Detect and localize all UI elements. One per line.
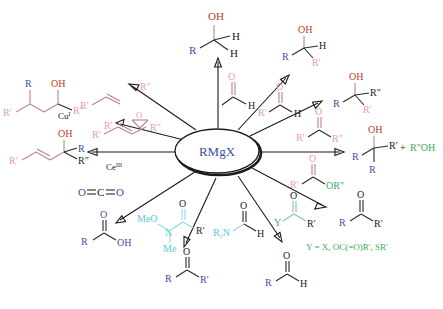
atom-rprime: R': [307, 218, 316, 229]
atom-o: O: [228, 71, 235, 82]
atom-h: H: [248, 100, 255, 111]
atom-o: O: [136, 110, 143, 120]
product-aldehyde: O R H: [265, 250, 307, 289]
atom-r: R: [282, 51, 289, 62]
product-primary-alcohol: OH R H H: [189, 10, 240, 59]
catalyst-cu-label: CuI: [58, 111, 71, 121]
reagent-acyl-y: O Y R': [274, 190, 316, 229]
arrowhead-bottom-right: [274, 233, 282, 243]
atom-o: O: [240, 200, 247, 211]
atom-rprime: R': [3, 107, 12, 118]
atom-rprime2: R": [78, 155, 89, 166]
reagent-ketone: O R' R": [296, 106, 343, 144]
atom-oh: OH: [208, 10, 224, 22]
atom-r2n: R2N: [213, 227, 230, 239]
atom-o1: O: [78, 186, 86, 198]
atom-o: O: [357, 189, 364, 200]
reagent-epoxide: O: [132, 110, 148, 128]
atom-rprime: R': [9, 155, 18, 166]
atom-me: Me: [163, 243, 177, 254]
atom-rprime: R': [258, 107, 267, 118]
atom-rprime2: R": [370, 87, 381, 98]
atom-rprime: R': [374, 218, 383, 229]
atom-r1: R: [352, 151, 359, 162]
atom-r: R: [81, 236, 88, 247]
reaction-scheme-canvas: RMgX OH R H H O H OH R H R' O R': [0, 0, 443, 309]
reagent-formamide: O R2N H: [213, 200, 264, 239]
atom-o: O: [100, 209, 107, 220]
reagent-weinreb-amide: O MeO N Me R': [137, 198, 205, 254]
reagent-ester: O R' OR": [290, 153, 344, 191]
atom-oh: OH: [58, 128, 72, 139]
atom-o: O: [179, 198, 186, 209]
atom-meo: MeO: [137, 213, 158, 224]
atom-o: O: [276, 81, 283, 92]
atom-rprime: R': [363, 104, 372, 115]
atom-h2: H: [230, 47, 238, 59]
atom-oh: OH: [117, 237, 131, 248]
product-allylic-alcohol: R' OH R R": [9, 128, 89, 166]
atom-r: R: [339, 217, 346, 228]
catalyst-ce-label: CeIII: [106, 162, 122, 172]
center-node[interactable]: RMgX: [175, 129, 261, 175]
reagent-formaldehyde: O H: [222, 71, 255, 111]
atom-y: Y: [274, 217, 281, 228]
atom-o: O: [183, 246, 190, 257]
reagent-aldehyde: O R' H: [258, 81, 301, 119]
atom-h: H: [300, 278, 307, 289]
atom-rprime: R': [200, 274, 209, 285]
arrow-to-carboxylic-acid: [120, 170, 198, 220]
atom-h: H: [319, 40, 326, 51]
plus-sign: +: [400, 142, 406, 153]
atom-o: O: [290, 190, 297, 201]
atom-rprime: R': [80, 100, 89, 111]
atom-o: O: [283, 250, 290, 261]
atom-oh: OH: [368, 124, 382, 135]
atom-rprime-mid: R': [104, 120, 113, 131]
legend-y-definition: Y = X, OC(=O)R', SR': [306, 242, 388, 252]
atom-o2: O: [116, 186, 124, 198]
atom-oh: OH: [51, 78, 65, 89]
atom-oh: OH: [298, 24, 312, 35]
arrow-to-conjugate-addition: [132, 86, 196, 130]
product-secondary-alcohol: OH R H R': [282, 24, 326, 68]
reagent-enone-cu: R': [80, 94, 120, 111]
center-label: RMgX: [199, 144, 236, 159]
atom-r: R: [25, 78, 32, 89]
atom-or2: OR": [326, 180, 344, 191]
product-ketone-acyl: O R R': [339, 189, 383, 229]
atom-rprime: R': [92, 129, 101, 140]
atom-rprime2-upper: R": [140, 81, 151, 92]
atom-c: C: [97, 186, 104, 198]
atom-oh: OH: [349, 71, 363, 82]
atom-rprime: R': [312, 57, 321, 68]
atom-rprime: R': [389, 140, 398, 151]
product-double-addition: OH R R' R + R"OH: [352, 124, 435, 175]
atom-r2: R: [369, 164, 376, 175]
atom-r: R: [265, 277, 272, 288]
atom-rprime: R': [296, 132, 305, 143]
product-carboxylic-acid: O R OH: [81, 209, 131, 248]
atom-r: R: [189, 44, 197, 56]
product-tertiary-alcohol: OH R R" R': [333, 71, 381, 115]
coproduct-alcohol: R"OH: [410, 142, 435, 153]
arrowhead-right-lower: [315, 203, 326, 209]
atom-rprime: R': [196, 225, 205, 236]
reagent-carbon-dioxide: O C O: [78, 186, 124, 198]
atom-h: H: [257, 228, 264, 239]
atom-r: R: [78, 143, 85, 154]
atom-r: R: [165, 273, 172, 284]
atom-rprime: R': [290, 179, 299, 190]
atom-r: R: [333, 98, 340, 109]
atom-n: N: [165, 227, 172, 238]
atom-rprime2-mid: R": [150, 122, 161, 133]
atom-o: O: [315, 106, 322, 117]
atom-h1: H: [232, 30, 240, 42]
product-conjugate-addition: R OH R' R": [3, 78, 84, 118]
atom-o: O: [309, 153, 316, 164]
atom-h: H: [294, 108, 301, 119]
atom-rprime2: R": [332, 133, 343, 144]
